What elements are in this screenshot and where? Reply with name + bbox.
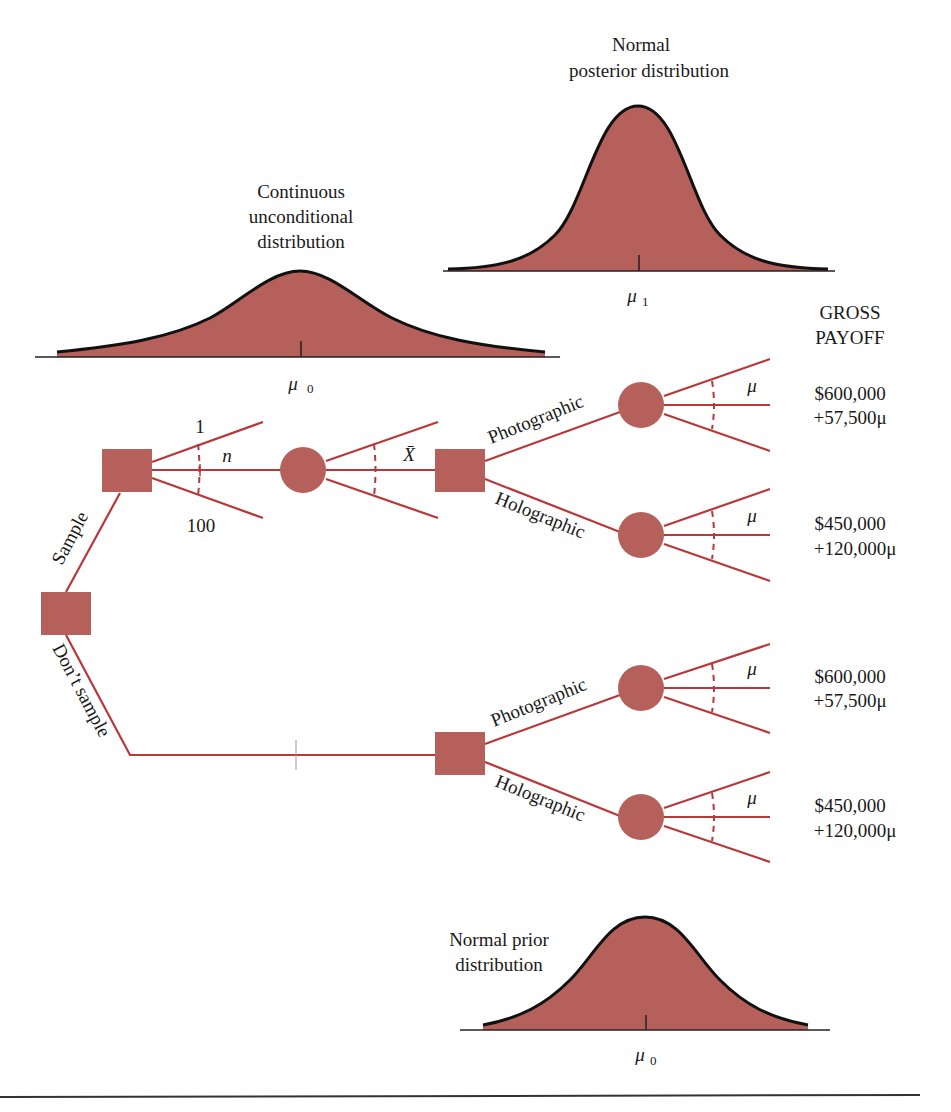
prior-title-line-2: distribution [455, 954, 543, 975]
dont-sample-branch [66, 635, 457, 755]
state-var-label: μ [746, 658, 757, 679]
sample-result-branch-bottom [326, 479, 438, 518]
state-chance-node [618, 665, 664, 711]
state-chance-group-nosample-holographic: μ $450,000 +120,000μ [618, 772, 896, 862]
sample-size-branch-bottom [152, 478, 263, 518]
state-chance-group-sample-photographic: μ $600,000 +57,500μ [618, 359, 887, 451]
state-var-label: μ [746, 505, 757, 526]
state-chance-node [618, 794, 664, 840]
payoff-line-1: $450,000 [814, 513, 885, 534]
state-branch-bottom [664, 544, 770, 581]
photographic-label-nosample: Photographic [488, 673, 590, 730]
sample-result-var-label: X̄ [402, 444, 416, 465]
root-decision-node [41, 592, 91, 635]
sample-result-chance-node [280, 447, 326, 493]
act-decision-node-nosample [435, 732, 485, 775]
unconditional-title-line-1: Continuous [257, 181, 345, 202]
sample-size-min-label: 1 [195, 416, 205, 437]
state-chance-node [618, 382, 664, 428]
prior-mean-sub: 0 [650, 1053, 657, 1068]
payoff-header-line-1: GROSS [819, 302, 880, 323]
sample-size-branch-top [152, 422, 263, 462]
decision-tree-diagram: Continuous unconditional distribution μ … [0, 0, 951, 1112]
sample-result-branch-top [326, 422, 438, 461]
state-chance-node [618, 512, 664, 558]
payoff-line-2: +120,000μ [814, 538, 897, 559]
unconditional-title-line-3: distribution [257, 231, 345, 252]
act-decision-node-sample [435, 449, 485, 492]
unconditional-title-line-2: unconditional [249, 206, 353, 227]
posterior-curve-area [448, 106, 828, 271]
payoff-header-line-2: PAYOFF [815, 327, 884, 348]
sample-size-decision-node [102, 449, 152, 492]
dont-sample-branch-label: Don’t sample [48, 640, 115, 740]
state-chance-group-nosample-photographic: μ $600,000 +57,500μ [618, 644, 887, 733]
state-var-label: μ [746, 375, 757, 396]
posterior-title-line-1: Normal [612, 34, 670, 55]
prior-mean-label: μ [634, 1044, 645, 1065]
sample-branch-label: Sample [47, 508, 92, 568]
payoff-line-2: +57,500μ [813, 690, 886, 711]
payoff-line-2: +57,500μ [813, 407, 886, 428]
state-branch-bottom [664, 826, 770, 862]
posterior-mean-sub: 1 [642, 294, 649, 309]
payoff-line-2: +120,000μ [814, 820, 897, 841]
sample-size-max-label: 100 [187, 515, 216, 536]
photographic-label-sample: Photographic [485, 390, 587, 447]
payoff-line-1: $450,000 [814, 795, 885, 816]
unconditional-mean-label: μ [287, 373, 298, 394]
unconditional-mean-sub: 0 [307, 381, 314, 396]
state-branch-bottom [664, 697, 770, 733]
state-var-label: μ [746, 787, 757, 808]
state-branch-bottom [664, 414, 770, 451]
prior-distribution: Normal prior distribution μ 0 [449, 917, 830, 1068]
posterior-title-line-2: posterior distribution [569, 60, 729, 81]
prior-title-line-1: Normal prior [449, 929, 549, 950]
posterior-distribution: Normal posterior distribution μ 1 [443, 34, 835, 309]
sample-size-var-label: n [222, 445, 232, 466]
posterior-mean-label: μ [626, 285, 637, 306]
bottom-separator [0, 1095, 920, 1097]
state-chance-group-sample-holographic: μ $450,000 +120,000μ [618, 489, 896, 581]
payoff-line-1: $600,000 [814, 383, 885, 404]
unconditional-distribution: Continuous unconditional distribution μ … [35, 181, 560, 396]
payoff-line-1: $600,000 [814, 666, 885, 687]
